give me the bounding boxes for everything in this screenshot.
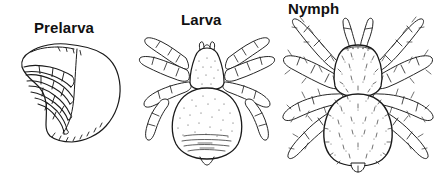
- nymph-illustration: [0, 0, 440, 175]
- nymph-drawing: [283, 17, 433, 172]
- mite-life-stages-figure: Prelarva: [0, 0, 440, 175]
